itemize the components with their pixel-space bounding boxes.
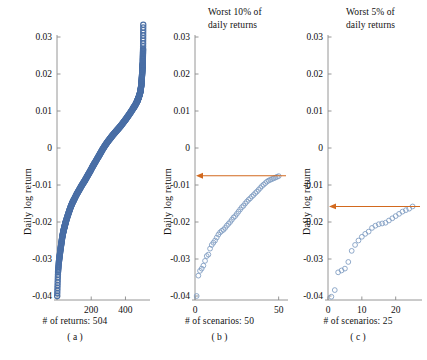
x-caption-b: # of scenarios: 50 [150,316,289,326]
x-caption-c: # of scenarios: 25 [289,316,427,326]
svg-text:-0.04: -0.04 [303,291,323,301]
sub-caption-b: ( b ) [150,332,289,342]
panel-a: Daily log return 0.030.020.010-0.01-0.02… [0,0,150,360]
x-caption-a: # of returns: 504 [0,316,150,326]
svg-text:-0.01: -0.01 [170,180,190,190]
svg-text:0.03: 0.03 [173,32,190,42]
svg-text:10: 10 [357,305,367,315]
svg-text:400: 400 [118,305,133,315]
svg-text:0.03: 0.03 [35,32,52,42]
svg-text:0.01: 0.01 [173,106,190,116]
cropped-caption-remnant [95,352,345,359]
sub-caption-a: ( a ) [0,332,150,342]
svg-text:-0.04: -0.04 [32,291,52,301]
svg-text:-0.02: -0.02 [32,217,52,227]
svg-text:0.02: 0.02 [173,69,190,79]
svg-text:0.01: 0.01 [35,106,52,116]
svg-text:-0.02: -0.02 [170,217,190,227]
svg-text:20: 20 [391,305,401,315]
svg-text:0.01: 0.01 [306,106,323,116]
svg-text:-0.04: -0.04 [170,291,190,301]
svg-text:0.03: 0.03 [306,32,323,42]
sub-caption-c: ( c ) [289,332,427,342]
svg-text:0.02: 0.02 [35,69,52,79]
svg-text:0.02: 0.02 [306,69,323,79]
svg-text:-0.02: -0.02 [303,217,323,227]
svg-text:0: 0 [318,143,323,153]
svg-text:0: 0 [326,305,331,315]
svg-text:-0.01: -0.01 [303,180,323,190]
panel-c: Worst 5% of daily returns Daily log retu… [289,0,427,360]
svg-text:0: 0 [47,143,52,153]
panel-b: Worst 10% of daily returns Daily log ret… [150,0,289,360]
svg-text:-0.03: -0.03 [303,254,323,264]
svg-text:0: 0 [185,143,190,153]
scatter-plot-c: 0.030.020.010-0.01-0.02-0.03-0.0401020 [289,0,427,360]
scatter-plot-a: 0.030.020.010-0.01-0.02-0.03-0.04200400 [0,0,150,360]
svg-text:-0.03: -0.03 [170,254,190,264]
scatter-plot-b: 0.030.020.010-0.01-0.02-0.03-0.04050 [150,0,289,360]
svg-text:50: 50 [274,305,284,315]
svg-text:0: 0 [193,305,198,315]
figure-container: Daily log return 0.030.020.010-0.01-0.02… [0,0,427,360]
svg-text:200: 200 [84,305,99,315]
svg-text:-0.01: -0.01 [32,180,52,190]
svg-text:-0.03: -0.03 [32,254,52,264]
